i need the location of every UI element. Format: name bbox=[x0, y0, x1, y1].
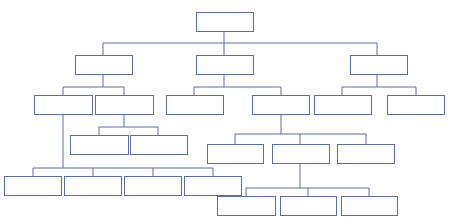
tree-node-box[interactable] bbox=[65, 177, 122, 196]
tree-node-box[interactable] bbox=[197, 13, 254, 32]
tree-node-box[interactable] bbox=[315, 96, 372, 115]
tree-node-box[interactable] bbox=[351, 56, 408, 75]
tree-node-box[interactable] bbox=[76, 56, 133, 75]
tree-node-box[interactable] bbox=[35, 96, 93, 115]
tree-node-box[interactable] bbox=[342, 197, 398, 216]
tree-node-box[interactable] bbox=[125, 177, 182, 196]
tree-svg-canvas bbox=[0, 0, 451, 222]
tree-node-box[interactable] bbox=[338, 145, 395, 164]
tree-node-box[interactable] bbox=[208, 145, 264, 164]
tree-node-box[interactable] bbox=[218, 197, 276, 216]
tree-node-box[interactable] bbox=[388, 96, 445, 115]
org-chart-diagram bbox=[0, 0, 451, 222]
tree-node-box[interactable] bbox=[5, 177, 62, 196]
tree-node-box[interactable] bbox=[96, 96, 154, 115]
tree-node-box[interactable] bbox=[281, 197, 337, 216]
tree-node-box[interactable] bbox=[253, 96, 310, 115]
tree-node-box[interactable] bbox=[197, 56, 254, 75]
tree-node-box[interactable] bbox=[131, 136, 188, 155]
tree-node-box[interactable] bbox=[273, 145, 330, 164]
tree-node-box[interactable] bbox=[185, 177, 242, 196]
tree-node-box[interactable] bbox=[167, 96, 224, 115]
tree-node-box[interactable] bbox=[71, 136, 129, 155]
